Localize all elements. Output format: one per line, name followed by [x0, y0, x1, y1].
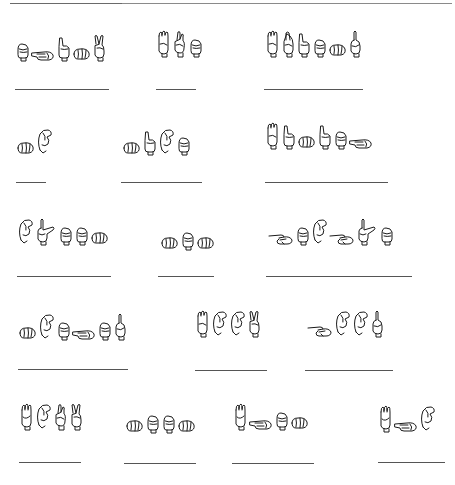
- answer-blank-line[interactable]: [121, 182, 202, 183]
- hand-sign-c-open-icon: [229, 310, 246, 338]
- hand-sign-sequence: [233, 403, 309, 431]
- hand-sign-fist-icon: [97, 319, 112, 341]
- hand-sign-c-open-icon: [311, 218, 328, 246]
- answer-blank-line[interactable]: [266, 276, 412, 277]
- hand-sign-c-open-icon: [158, 128, 175, 156]
- hand-sign-g-icon: [307, 324, 333, 338]
- hand-sign-c-open-icon: [211, 310, 228, 338]
- worksheet-title: Fingerspelling worksheet: [0, 0, 1, 1]
- hand-sign-fist-side-icon: [177, 418, 196, 434]
- hand-sign-b-icon: [265, 122, 280, 150]
- hand-sign-flat-side-icon: [31, 48, 55, 62]
- hand-sign-fist-side-icon: [18, 325, 37, 341]
- hand-sign-w-icon: [378, 405, 393, 433]
- hand-sign-v-icon: [69, 403, 83, 431]
- hand-sign-c-open-icon: [334, 310, 351, 338]
- hand-sign-flat-side-icon: [249, 417, 273, 431]
- hand-sign-k-icon: [53, 403, 68, 431]
- hand-sign-d-icon: [113, 313, 127, 341]
- hand-sign-l-icon: [356, 218, 378, 246]
- hand-sign-sequence: [378, 405, 436, 433]
- answer-blank-line[interactable]: [232, 463, 314, 464]
- hand-sign-r-icon: [281, 30, 295, 58]
- answer-blank-line[interactable]: [17, 276, 111, 277]
- hand-sign-sequence: [16, 128, 53, 156]
- hand-sign-fist-icon: [180, 229, 195, 251]
- hand-sign-sequence: [307, 310, 384, 338]
- answer-blank-line[interactable]: [124, 463, 196, 464]
- hand-sign-fist-side-icon: [72, 46, 91, 62]
- hand-sign-fist-side-icon: [328, 42, 347, 58]
- hand-sign-g-icon: [329, 232, 355, 246]
- hand-sign-sequence: [18, 313, 127, 341]
- hand-sign-w-icon: [19, 403, 34, 431]
- hand-sign-fist-icon: [58, 224, 73, 246]
- hand-sign-v-icon: [247, 310, 261, 338]
- hand-sign-fist-side-icon: [196, 235, 215, 251]
- hand-sign-fist-side-icon: [160, 235, 179, 251]
- hand-sign-sequence: [160, 229, 215, 251]
- hand-sign-v-icon: [92, 34, 106, 62]
- hand-sign-fist-icon: [188, 36, 203, 58]
- hand-sign-sequence: [17, 218, 109, 246]
- hand-sign-index-hook-icon: [281, 124, 296, 150]
- hand-sign-fist-side-icon: [90, 230, 109, 246]
- hand-sign-c-open-icon: [35, 403, 52, 431]
- hand-sign-index-hook-icon: [142, 130, 157, 156]
- hand-sign-flat-side-icon: [72, 327, 96, 341]
- answer-blank-line[interactable]: [15, 89, 109, 90]
- hand-sign-sequence: [125, 412, 196, 434]
- hand-sign-fist-side-icon: [122, 140, 141, 156]
- hand-sign-index-hook-icon: [296, 32, 311, 58]
- answer-blank-line[interactable]: [195, 370, 267, 371]
- hand-sign-d-icon: [348, 30, 362, 58]
- hand-sign-flat-side-icon: [394, 419, 418, 433]
- hand-sign-sequence: [265, 122, 373, 150]
- hand-sign-fist-side-icon: [297, 134, 316, 150]
- hand-sign-c-open-icon: [352, 310, 369, 338]
- hand-sign-flat-side-icon: [349, 136, 373, 150]
- hand-sign-fist-icon: [295, 224, 310, 246]
- hand-sign-sequence: [19, 403, 83, 431]
- answer-blank-line[interactable]: [19, 462, 81, 463]
- hand-sign-fist-icon: [274, 409, 289, 431]
- top-rule-line: [122, 3, 452, 4]
- answer-blank-line[interactable]: [378, 462, 445, 463]
- hand-sign-fist-icon: [161, 412, 176, 434]
- hand-sign-index-hook-icon: [317, 124, 332, 150]
- answer-blank-line[interactable]: [156, 89, 196, 90]
- hand-sign-fist-icon: [74, 224, 89, 246]
- hand-sign-b-icon: [195, 310, 210, 338]
- hand-sign-fist-icon: [145, 412, 160, 434]
- hand-sign-w-icon: [233, 403, 248, 431]
- top-rule-line: [10, 3, 122, 4]
- answer-blank-line[interactable]: [158, 276, 214, 277]
- hand-sign-l-icon: [35, 218, 57, 246]
- answer-blank-line[interactable]: [265, 182, 388, 183]
- hand-sign-fist-icon: [56, 319, 71, 341]
- hand-sign-fist-icon: [176, 134, 191, 156]
- hand-sign-sequence: [156, 30, 203, 58]
- hand-sign-fist-side-icon: [290, 415, 309, 431]
- hand-sign-sequence: [265, 30, 362, 58]
- hand-sign-sequence: [15, 34, 106, 62]
- hand-sign-b-icon: [156, 30, 171, 58]
- hand-sign-c-open-icon: [419, 405, 436, 433]
- hand-sign-fist-side-icon: [16, 140, 35, 156]
- answer-blank-line[interactable]: [16, 182, 46, 183]
- answer-blank-line[interactable]: [305, 370, 393, 371]
- answer-blank-line[interactable]: [18, 369, 128, 370]
- answer-blank-line[interactable]: [264, 89, 363, 90]
- hand-sign-c-open-icon: [17, 218, 34, 246]
- hand-sign-fist-icon: [15, 40, 30, 62]
- hand-sign-k-icon: [172, 30, 187, 58]
- hand-sign-fist-icon: [312, 36, 327, 58]
- hand-sign-b-icon: [265, 30, 280, 58]
- hand-sign-sequence: [195, 310, 261, 338]
- hand-sign-d-icon: [370, 310, 384, 338]
- hand-sign-sequence: [122, 128, 191, 156]
- hand-sign-fist-side-icon: [125, 418, 144, 434]
- hand-sign-c-open-icon: [36, 128, 53, 156]
- hand-sign-g-icon: [268, 232, 294, 246]
- hand-sign-sequence: [268, 218, 394, 246]
